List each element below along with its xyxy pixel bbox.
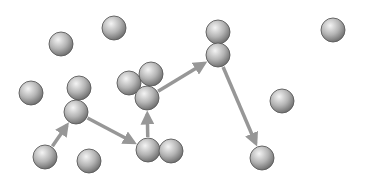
sphere-icon [102, 16, 126, 40]
sphere-icon [19, 81, 43, 105]
sphere-icon [250, 146, 274, 170]
sphere-icon [49, 32, 73, 56]
sphere-icon [321, 18, 345, 42]
sphere-icon [135, 86, 159, 110]
sphere-icon [206, 43, 230, 67]
sphere-icon [33, 145, 57, 169]
sphere-path-diagram [0, 0, 366, 181]
sphere-icon [64, 100, 88, 124]
sphere-icon [139, 62, 163, 86]
sphere-icon [159, 139, 183, 163]
sphere-icon [67, 76, 91, 100]
sphere-icon [77, 149, 101, 173]
sphere-icon [270, 89, 294, 113]
sphere-icon [136, 138, 160, 162]
sphere-icon [206, 20, 230, 44]
